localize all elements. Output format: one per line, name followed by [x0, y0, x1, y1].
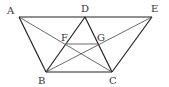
label-C: C: [109, 75, 117, 86]
segment-CE: [112, 17, 152, 72]
label-B: B: [38, 75, 45, 86]
label-G: G: [97, 32, 105, 43]
label-E: E: [151, 3, 158, 14]
label-D: D: [81, 3, 89, 14]
label-F: F: [61, 32, 68, 43]
geometry-diagram: A D E B C F G: [0, 0, 169, 87]
label-A: A: [6, 5, 15, 16]
segment-BE: [46, 17, 152, 72]
